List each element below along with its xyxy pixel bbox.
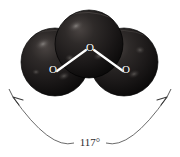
tick-right (167, 89, 171, 97)
arrowhead-right (157, 97, 167, 105)
tick-left (9, 89, 13, 97)
arrowhead-left (13, 97, 23, 105)
ozone-molecule-figure: O O O 117° (0, 0, 180, 157)
atom-label-oxygen-center: O (83, 42, 97, 53)
atom-label-oxygen-left: O (46, 64, 60, 75)
molecule-illustration (0, 0, 180, 157)
atom-label-oxygen-right: O (119, 64, 133, 75)
bond-angle-label: 117° (70, 137, 110, 148)
